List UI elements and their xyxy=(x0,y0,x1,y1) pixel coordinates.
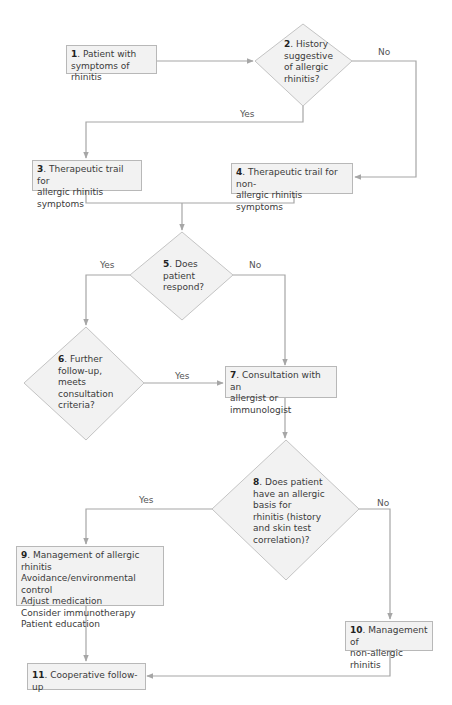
decision-8-line-6: correlation)? xyxy=(253,535,310,545)
decision-6-line-2: follow-up, xyxy=(58,366,102,376)
edge-5-to-6 xyxy=(86,275,130,325)
step-11-box: 11. Cooperative follow-up xyxy=(27,663,146,690)
step-3-box: 3. Therapeutic trail for allergic rhinit… xyxy=(32,160,142,191)
step-3-line-1: . Therapeutic trail for xyxy=(37,164,123,186)
decision-6-line-5: criteria? xyxy=(58,400,95,410)
step-9-line-2: Avoidance/environmental control xyxy=(21,573,136,595)
decision-5-line-3: respond? xyxy=(163,282,204,292)
step-9-line-5: Patient education xyxy=(21,619,100,629)
step-4-line-1: . Therapeutic trail for non- xyxy=(236,167,338,189)
step-11-line-1: . Cooperative follow-up xyxy=(32,670,138,692)
edge-2-yes-label: Yes xyxy=(240,109,255,119)
step-9-line-1: . Management of allergic rhinitis xyxy=(21,550,139,572)
step-7-line-2: allergist or immunologist xyxy=(230,393,291,415)
decision-8-line-4: rhinitis (history xyxy=(253,512,321,522)
decision-6-line-3: meets xyxy=(58,377,86,387)
edge-2-to-3 xyxy=(86,105,303,158)
decision-8-line-1: . Does patient xyxy=(259,477,322,487)
step-7-box: 7. Consultation with an allergist or imm… xyxy=(225,366,337,398)
step-1-line-1: . Patient with xyxy=(77,49,136,59)
edge-2-to-4 xyxy=(352,61,416,177)
edge-8-to-9 xyxy=(86,509,212,544)
decision-2-line-3: of allergic xyxy=(284,62,328,72)
step-4-box: 4. Therapeutic trail for non- allergic r… xyxy=(231,163,353,194)
decision-6-text: 6. Further follow-up, meets consultation… xyxy=(58,354,120,412)
decision-5-text: 5. Does patient respond? xyxy=(163,259,213,294)
decision-8-line-5: and skin test xyxy=(253,523,311,533)
decision-6-line-1: . Further xyxy=(64,354,102,364)
step-10-number: 10 xyxy=(350,625,363,635)
step-9-box: 9. Management of allergic rhinitis Avoid… xyxy=(16,546,164,606)
decision-5-line-1: . Does xyxy=(169,259,197,269)
decision-2-line-1: . History xyxy=(290,39,328,49)
step-10-line-1: . Management of xyxy=(350,625,428,647)
decision-2-text: 2. History suggestive of allergic rhinit… xyxy=(284,39,344,85)
step-1-box: 1. Patient with symptoms of rhinitis xyxy=(66,45,157,74)
decision-2-line-2: suggestive xyxy=(284,51,333,61)
edge-8-yes-label: Yes xyxy=(139,495,154,505)
decision-8-text: 8. Does patient have an allergic basis f… xyxy=(253,477,333,546)
step-9-line-3: Adjust medication xyxy=(21,596,102,606)
edge-6-yes-label: Yes xyxy=(175,371,190,381)
edge-8-no-label: No xyxy=(377,498,389,508)
decision-5-line-2: patient xyxy=(163,271,195,281)
edge-5-to-7 xyxy=(233,275,285,365)
step-9-line-4: Consider immunotherapy xyxy=(21,608,135,618)
edge-5-yes-label: Yes xyxy=(100,260,115,270)
decision-8-line-3: basis for xyxy=(253,500,291,510)
decision-8-line-2: have an allergic xyxy=(253,489,325,499)
decision-6-line-4: consultation xyxy=(58,389,113,399)
edge-5-no-label: No xyxy=(249,260,261,270)
step-11-number: 11 xyxy=(32,670,45,680)
edge-2-no-label: No xyxy=(378,47,390,57)
step-10-box: 10. Management of non-allergic rhinitis xyxy=(345,621,433,651)
edge-8-to-10 xyxy=(359,509,390,619)
step-7-line-1: . Consultation with an xyxy=(230,370,321,392)
decision-2-line-4: rhinitis? xyxy=(284,74,319,84)
